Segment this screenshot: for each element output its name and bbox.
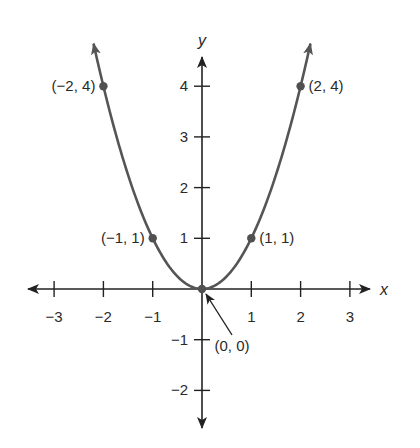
axes — [28, 57, 370, 428]
labels: xy−3−2−1123−2−11234(−2, 4)(2, 4)(−1, 1)(… — [46, 32, 389, 398]
x-tick-label: −3 — [46, 308, 63, 325]
y-tick-label: 2 — [180, 179, 188, 196]
y-tick-label: 1 — [180, 229, 188, 246]
data-point-marker — [149, 234, 157, 242]
point-label: (−2, 4) — [52, 77, 96, 94]
data-point-marker — [198, 285, 206, 293]
y-axis-label: y — [197, 32, 207, 49]
y-tick-label: −2 — [171, 381, 188, 398]
data-point-marker — [247, 234, 255, 242]
y-tick-label: 3 — [180, 128, 188, 145]
point-label: (1, 1) — [259, 229, 294, 246]
x-axis-label: x — [379, 281, 389, 298]
x-tick-label: −2 — [95, 308, 112, 325]
parabola-chart: xy−3−2−1123−2−11234(−2, 4)(2, 4)(−1, 1)(… — [0, 0, 420, 448]
y-tick-label: 4 — [180, 77, 188, 94]
x-tick-label: 3 — [346, 308, 354, 325]
point-label: (2, 4) — [309, 77, 344, 94]
point-label: (−1, 1) — [101, 229, 145, 246]
origin-callout-arrow — [206, 294, 232, 335]
x-tick-label: 2 — [296, 308, 304, 325]
x-tick-label: 1 — [247, 308, 255, 325]
x-tick-label: −1 — [144, 308, 161, 325]
point-label: (0, 0) — [214, 337, 249, 354]
data-point-marker — [296, 82, 304, 90]
data-point-marker — [99, 82, 107, 90]
parabola-right-branch — [202, 44, 310, 289]
y-tick-label: −1 — [171, 331, 188, 348]
